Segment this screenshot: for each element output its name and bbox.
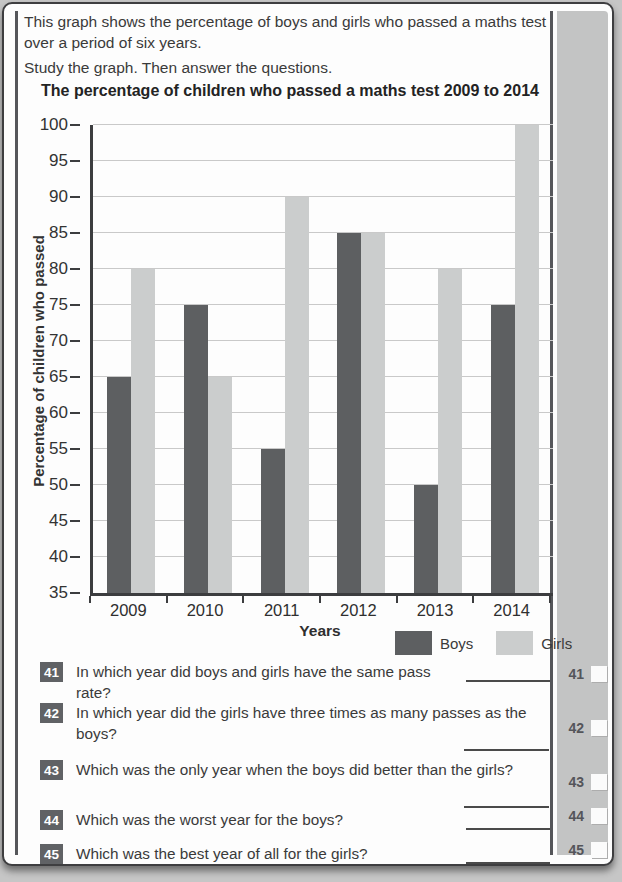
answer-checkbox[interactable] — [591, 774, 607, 790]
bar-boys-2014 — [491, 305, 515, 593]
answer-line[interactable] — [464, 749, 549, 751]
margin-mark-44: 44 — [562, 806, 607, 826]
question-42: 42 In which year did the girls have thre… — [40, 702, 550, 744]
y-tick-label: 95 — [28, 152, 68, 170]
question-text: Which was the best year of all for the g… — [76, 843, 460, 864]
y-tick-label: 75 — [28, 296, 68, 314]
y-tick-mark — [70, 556, 80, 558]
margin-mark-number: 45 — [562, 842, 584, 858]
worksheet-page: 41 42 43 44 45 This graph shows the perc… — [2, 2, 614, 866]
bar-boys-2009 — [107, 377, 131, 593]
y-tick-label: 65 — [28, 368, 68, 386]
bar-group-2012 — [323, 125, 400, 593]
margin-mark-number: 44 — [562, 808, 584, 824]
bar-group-2009 — [93, 125, 170, 593]
x-category-label: 2014 — [473, 601, 550, 620]
y-tick-mark — [70, 484, 80, 486]
question-44: 44 Which was the worst year for the boys… — [40, 809, 550, 830]
y-tick-mark — [70, 304, 80, 306]
bar-girls-2011 — [285, 197, 309, 593]
y-tick-mark — [70, 160, 80, 162]
bar-girls-2012 — [361, 233, 385, 593]
legend-label-boys: Boys — [440, 635, 473, 652]
question-number-badge: 44 — [40, 810, 63, 830]
question-number-badge: 42 — [40, 703, 63, 723]
y-tick-label: 50 — [28, 476, 68, 494]
legend-label-girls: Girls — [541, 635, 572, 652]
question-text: In which year did boys and girls have th… — [76, 661, 460, 703]
answer-checkbox[interactable] — [591, 842, 607, 858]
y-tick-mark — [70, 448, 80, 450]
intro-text: This graph shows the percentage of boys … — [24, 11, 548, 53]
margin-mark-number: 43 — [562, 774, 584, 790]
x-category-label: 2012 — [320, 601, 397, 620]
legend-swatch-girls — [496, 631, 533, 655]
y-tick-mark — [70, 592, 80, 594]
bar-boys-2012 — [337, 233, 361, 593]
y-tick-label: 70 — [28, 332, 68, 350]
chart-title: The percentage of children who passed a … — [32, 82, 548, 100]
question-41: 41 In which year did boys and girls have… — [40, 661, 550, 703]
instruction-text: Study the graph. Then answer the questio… — [24, 57, 548, 78]
bar-boys-2013 — [414, 485, 438, 593]
margin-mark-number: 42 — [562, 720, 584, 736]
left-margin-rule — [15, 11, 18, 855]
bar-girls-2013 — [438, 269, 462, 593]
question-45: 45 Which was the best year of all for th… — [40, 843, 550, 864]
question-number-badge: 45 — [40, 844, 63, 864]
x-category-label: 2010 — [167, 601, 244, 620]
margin-mark-number: 41 — [562, 666, 584, 682]
answer-line[interactable] — [466, 809, 550, 830]
margin-mark-45: 45 — [562, 840, 607, 860]
y-tick-mark — [70, 268, 80, 270]
y-tick-label: 60 — [28, 404, 68, 422]
question-43: 43 Which was the only year when the boys… — [40, 759, 550, 780]
bar-girls-2014 — [515, 125, 539, 593]
y-tick-label: 80 — [28, 260, 68, 278]
bar-chart-plot — [90, 125, 553, 596]
question-number-badge: 41 — [40, 662, 63, 682]
y-tick-label: 85 — [28, 224, 68, 242]
answer-checkbox[interactable] — [591, 720, 607, 736]
answer-line[interactable] — [466, 843, 550, 864]
y-tick-mark — [70, 412, 80, 414]
y-tick-mark — [70, 520, 80, 522]
question-text: Which was the worst year for the boys? — [76, 809, 460, 830]
y-tick-mark — [70, 124, 80, 126]
bar-group-2010 — [170, 125, 247, 593]
bar-boys-2011 — [261, 449, 285, 593]
margin-mark-43: 43 — [562, 772, 607, 792]
bar-group-2013 — [400, 125, 477, 593]
answer-checkbox[interactable] — [591, 666, 607, 682]
chart-legend: BoysGirls — [395, 631, 595, 655]
x-category-label: 2011 — [243, 601, 320, 620]
bar-girls-2009 — [131, 269, 155, 593]
y-tick-label: 55 — [28, 440, 68, 458]
bar-girls-2010 — [208, 377, 232, 593]
question-text: Which was the only year when the boys di… — [76, 759, 550, 780]
y-tick-mark — [70, 340, 80, 342]
y-axis: 35404550556065707580859095100 — [34, 125, 80, 593]
bar-group-2011 — [246, 125, 323, 593]
y-tick-label: 90 — [28, 188, 68, 206]
y-tick-mark — [70, 196, 80, 198]
answer-line[interactable] — [466, 661, 550, 682]
y-tick-label: 35 — [28, 584, 68, 602]
answer-checkbox[interactable] — [591, 808, 607, 824]
y-tick-label: 40 — [28, 548, 68, 566]
bar-boys-2010 — [184, 305, 208, 593]
legend-swatch-boys — [395, 631, 432, 655]
bar-group-2014 — [476, 125, 553, 593]
answer-line[interactable] — [464, 806, 549, 808]
y-tick-label: 100 — [28, 116, 68, 134]
question-text: In which year did the girls have three t… — [76, 702, 550, 744]
y-tick-label: 45 — [28, 512, 68, 530]
margin-mark-41: 41 — [562, 664, 607, 684]
x-axis-category-labels: 200920102011201220132014 — [90, 601, 550, 621]
x-category-label: 2013 — [397, 601, 474, 620]
y-tick-mark — [70, 376, 80, 378]
x-category-label: 2009 — [90, 601, 167, 620]
y-tick-mark — [70, 232, 80, 234]
question-number-badge: 43 — [40, 760, 63, 780]
margin-mark-42: 42 — [562, 718, 607, 738]
